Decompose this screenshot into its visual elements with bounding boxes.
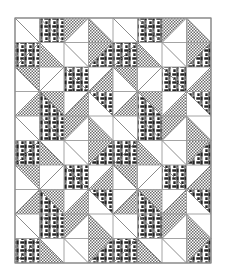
quilt-diagram-svg bbox=[0, 0, 225, 279]
quilt-pattern-figure: Pieced quilt layout diagram Black and wh… bbox=[0, 0, 225, 279]
quilt-canvas bbox=[0, 0, 225, 279]
